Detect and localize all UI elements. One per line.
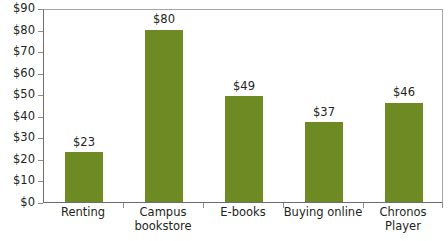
- bar[interactable]: [65, 152, 103, 202]
- y-tick-label: $20: [13, 154, 35, 166]
- y-tick-label: $90: [13, 3, 35, 15]
- y-tick-label: $50: [13, 89, 35, 101]
- bar[interactable]: [385, 103, 423, 202]
- y-axis: $90$80$70$60$50$40$30$20$10$0: [0, 0, 40, 241]
- x-category-label: E-books: [203, 206, 283, 220]
- bar-value-label: $46: [371, 87, 437, 99]
- bar-group[interactable]: $23: [65, 10, 103, 202]
- bar-group[interactable]: $46: [385, 10, 423, 202]
- bar-value-label: $49: [211, 81, 277, 93]
- plot-area: $23$80$49$37$46: [43, 9, 443, 203]
- x-category-label: Renting: [43, 206, 123, 220]
- x-category-label: Chronos Player: [363, 206, 443, 233]
- bar-value-label: $23: [51, 137, 117, 149]
- bar-group[interactable]: $80: [145, 10, 183, 202]
- y-tick-label: $80: [13, 25, 35, 37]
- y-tick-label: $10: [13, 175, 35, 187]
- bar[interactable]: [305, 122, 343, 202]
- bars-layer: $23$80$49$37$46: [44, 10, 442, 202]
- y-tick-label: $30: [13, 132, 35, 144]
- y-tick-label: $40: [13, 111, 35, 123]
- x-category-label: Buying online: [283, 206, 363, 220]
- bar[interactable]: [145, 30, 183, 202]
- bar-group[interactable]: $37: [305, 10, 343, 202]
- bar[interactable]: [225, 96, 263, 202]
- bar-chart: $90$80$70$60$50$40$30$20$10$0 $23$80$49$…: [0, 0, 448, 241]
- y-tick-label: $0: [20, 197, 35, 209]
- bar-group[interactable]: $49: [225, 10, 263, 202]
- x-axis: RentingCampus bookstoreE-booksBuying onl…: [43, 206, 443, 241]
- bar-value-label: $80: [131, 14, 197, 26]
- x-category-label: Campus bookstore: [123, 206, 203, 233]
- y-tick-label: $60: [13, 68, 35, 80]
- bar-value-label: $37: [291, 107, 357, 119]
- y-tick-label: $70: [13, 46, 35, 58]
